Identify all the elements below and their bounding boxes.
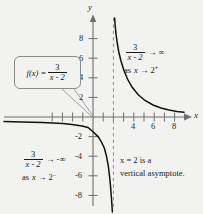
annotation-left-fraction: 3 x - 2 [24,150,43,169]
annotation-right-fraction: 3 x - 2 [126,43,145,62]
annotation-right-limit-line2: as x → 2 + [124,65,165,76]
annotation-left-numerator: 3 [29,150,37,159]
callout-function-name: f(x) = [27,68,47,78]
annotation-right-var: x [134,65,138,76]
annotation-right-limit-value: ∞ [159,47,165,58]
x-tick-label-6: 6 [151,122,155,131]
y-tick-label-neg2: -2 [75,132,82,141]
callout-denominator: x - 2 [48,72,67,82]
x-tick-label-8: 8 [172,122,176,131]
annotation-right-arrow-icon: → [148,47,157,58]
y-tick-label-neg6: -6 [75,171,82,180]
annotation-left-limit: 3 x - 2 → -∞ as x → 2 − [22,150,66,183]
annotation-left-var: x [32,172,36,183]
y-tick-label-neg4: -4 [75,152,82,161]
y-tick-label-2: 2 [79,93,83,102]
annotation-right-limit-line1: 3 x - 2 → ∞ [124,43,165,62]
annotation-asymptote-text: x = 2 is a vertical asymptote. [120,155,185,180]
annotation-right-as: as [124,65,131,76]
annotation-asymptote-line2: vertical asymptote. [120,168,185,179]
annotation-left-limit-line1: 3 x - 2 → -∞ [22,150,66,169]
annotation-left-approach-sign: − [53,171,56,179]
annotation-left-denominator: x - 2 [24,159,43,169]
annotation-left-limit-line2: as x → 2 − [22,172,66,183]
callout-fraction: 3 x - 2 [48,63,67,82]
annotation-right-limit: 3 x - 2 → ∞ as x → 2 + [124,43,165,76]
y-tick-label-8: 8 [79,34,83,43]
x-tick-label-4: 4 [131,122,135,131]
x-axis [4,114,192,121]
annotation-left-arrow2-icon: → [38,172,47,183]
y-axis-label: y [88,3,92,12]
annotation-left-limit-value: -∞ [57,154,66,165]
y-axis [90,15,97,207]
annotation-right-denominator: x - 2 [126,52,145,62]
annotation-left-arrow-icon: → [46,154,55,165]
annotation-right-arrow2-icon: → [140,65,149,76]
callout-numerator: 3 [53,63,61,72]
annotation-asymptote-line1: x = 2 is a [120,155,185,166]
annotation-left-as: as [22,172,29,183]
x-axis-label: x [194,111,198,120]
function-callout-box: f(x) = 3 x - 2 [14,56,81,89]
annotation-right-approach-sign: + [155,64,158,72]
annotation-right-numerator: 3 [131,43,139,52]
y-tick-label-neg8: -8 [75,191,82,200]
